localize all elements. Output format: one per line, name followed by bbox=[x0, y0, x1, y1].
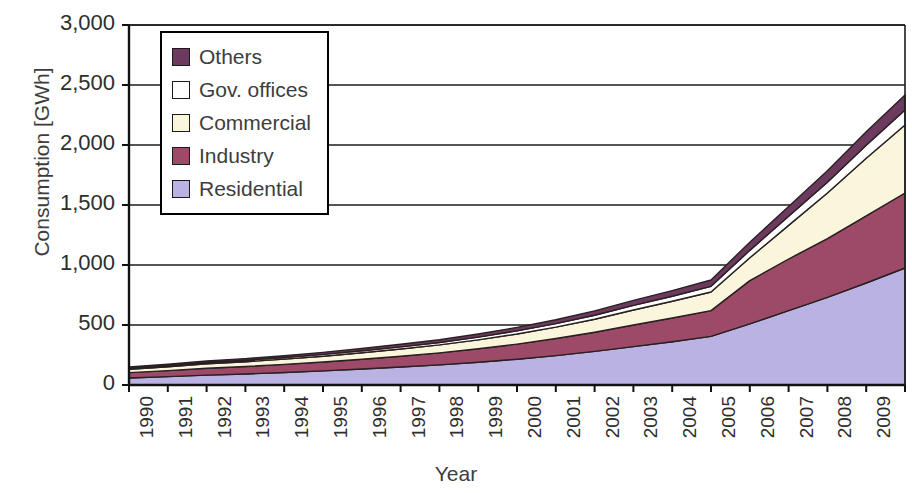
x-axis-tick-label: 1998 bbox=[446, 396, 468, 438]
x-axis-tick-label: 1990 bbox=[136, 396, 158, 438]
legend-item[interactable]: Gov. offices bbox=[172, 73, 311, 106]
legend-label: Industry bbox=[199, 145, 274, 166]
x-axis-tick-label: 2001 bbox=[563, 396, 585, 438]
x-axis-tick-label: 1999 bbox=[485, 396, 507, 438]
x-axis-tick-label: 1992 bbox=[214, 396, 236, 438]
legend-label: Others bbox=[199, 46, 262, 67]
x-axis-tick-label: 1991 bbox=[175, 396, 197, 438]
legend-label: Gov. offices bbox=[199, 79, 308, 100]
x-axis-tick-label: 2002 bbox=[602, 396, 624, 438]
x-axis-tick-label: 2003 bbox=[640, 396, 662, 438]
x-axis-tick-label: 2000 bbox=[524, 396, 546, 438]
x-axis-tick-label: 2004 bbox=[679, 396, 701, 438]
x-axis-tick-label: 2007 bbox=[796, 396, 818, 438]
legend-item[interactable]: Others bbox=[172, 40, 311, 73]
legend-label: Residential bbox=[199, 178, 303, 199]
legend-swatch-icon bbox=[172, 180, 190, 198]
legend-swatch-icon bbox=[172, 48, 190, 66]
x-axis-tick-label: 1996 bbox=[369, 396, 391, 438]
x-axis-tick-label: 2009 bbox=[873, 396, 895, 438]
x-axis-tick-label: 1994 bbox=[291, 396, 313, 438]
x-axis-tick-label: 2008 bbox=[834, 396, 856, 438]
legend-item[interactable]: Industry bbox=[172, 139, 311, 172]
stacked-area-chart: Consumption [GWh] 3,0002,5002,0001,5001,… bbox=[0, 0, 912, 493]
legend-swatch-icon bbox=[172, 147, 190, 165]
chart-legend: OthersGov. officesCommercialIndustryResi… bbox=[160, 31, 329, 215]
x-axis-title: Year bbox=[0, 462, 912, 486]
legend-swatch-icon bbox=[172, 81, 190, 99]
x-axis-tick-label: 1995 bbox=[330, 396, 352, 438]
x-axis-tick-label: 1993 bbox=[252, 396, 274, 438]
x-axis-tick-label: 2005 bbox=[718, 396, 740, 438]
legend-item[interactable]: Commercial bbox=[172, 106, 311, 139]
x-axis-tick-label: 2006 bbox=[757, 396, 779, 438]
legend-swatch-icon bbox=[172, 114, 190, 132]
x-axis-tick-label: 1997 bbox=[408, 396, 430, 438]
legend-item[interactable]: Residential bbox=[172, 172, 311, 205]
legend-label: Commercial bbox=[199, 112, 311, 133]
